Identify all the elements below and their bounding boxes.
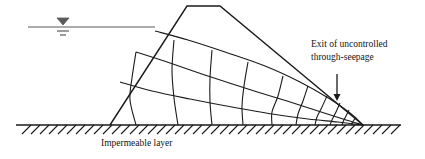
exit-seepage-label-line2: through-seepage [311, 52, 374, 62]
figure-container: Exit of uncontrolled through-seepage Imp… [0, 0, 425, 159]
earth-dam-seepage-diagram: Exit of uncontrolled through-seepage Imp… [0, 0, 425, 159]
exit-seepage-label-line1: Exit of uncontrolled [311, 39, 388, 49]
impermeable-layer-label: Impermeable layer [101, 138, 173, 148]
